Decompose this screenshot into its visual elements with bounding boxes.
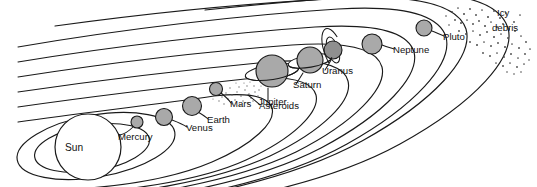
body-uranus	[324, 41, 342, 59]
label-mars: Mars	[230, 98, 252, 109]
label-icy-debris-line1: Icy	[497, 7, 509, 18]
label-icy-debris-line2: debris	[492, 22, 518, 33]
solar-system-diagram: Sun Mercury Venus Earth Mars Asteroids J…	[0, 0, 537, 187]
body-jupiter	[256, 55, 288, 87]
body-saturn	[297, 47, 323, 73]
label-mercury: Mercury	[118, 131, 153, 142]
body-neptune	[362, 34, 382, 54]
diagram-canvas: Sun Mercury Venus Earth Mars Asteroids J…	[0, 0, 537, 187]
label-pluto: Pluto	[443, 31, 465, 42]
label-earth: Earth	[207, 114, 230, 125]
body-earth	[183, 97, 202, 116]
body-pluto	[416, 20, 432, 36]
body-mars	[210, 83, 223, 96]
label-saturn: Saturn	[293, 79, 321, 90]
label-neptune: Neptune	[393, 44, 429, 55]
body-venus	[156, 109, 173, 126]
label-uranus: Uranus	[322, 65, 353, 76]
body-mercury	[131, 116, 143, 128]
label-sun: Sun	[65, 142, 83, 153]
leader-venus	[172, 120, 187, 127]
label-jupiter: Jupiter	[258, 96, 288, 107]
